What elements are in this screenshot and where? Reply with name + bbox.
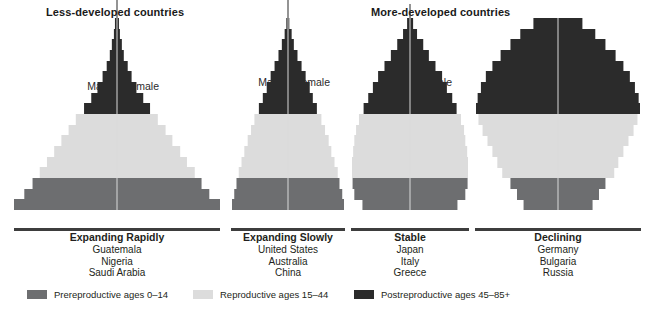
pyramid-caption-expanding-slowly: Expanding Slowly United States Australia…	[229, 232, 347, 279]
legend-item-reproductive: Reproductive ages 15–44	[193, 289, 328, 300]
group-heading-less-developed: Less-developed countries	[46, 6, 184, 18]
caption-country: Australia	[229, 256, 347, 268]
pyramid-panel-expanding-rapidly: Male Female	[6, 18, 228, 228]
pyramid-chart: Male Female	[349, 18, 471, 210]
legend: Prereproductive ages 0–14 Reproductive a…	[0, 286, 648, 308]
pyramid-caption-expanding-rapidly: Expanding Rapidly Guatemala Nigeria Saud…	[6, 232, 228, 279]
pyramid-caption-declining: Declining Germany Bulgaria Russia	[473, 232, 643, 279]
pyramid-chart: Male Female	[6, 18, 228, 210]
pyramid-chart: Male Female	[473, 18, 643, 210]
legend-label: Postreproductive ages 45–85+	[381, 289, 510, 300]
female-label: Female	[295, 76, 330, 88]
legend-swatch-icon	[354, 290, 374, 299]
female-label: Female	[565, 78, 600, 90]
caption-title: Stable	[349, 232, 471, 244]
pyramid-panel-declining: Male Female	[473, 18, 643, 228]
male-label: Male	[380, 76, 403, 88]
male-label: Male	[87, 80, 110, 92]
caption-country: Russia	[473, 267, 643, 279]
legend-item-prereproductive: Prereproductive ages 0–14	[27, 289, 168, 300]
caption-country: Guatemala	[6, 244, 228, 256]
caption-country: Saudi Arabia	[6, 267, 228, 279]
legend-label: Reproductive ages 15–44	[220, 289, 328, 300]
caption-title: Expanding Rapidly	[6, 232, 228, 244]
pyramid-spire	[117, 0, 118, 18]
pyramid-caption-stable: Stable Japan Italy Greece	[349, 232, 471, 279]
caption-country: China	[229, 267, 347, 279]
group-heading-more-developed: More-developed countries	[371, 6, 510, 18]
caption-country: Germany	[473, 244, 643, 256]
pyramid-chart: Male Female	[229, 18, 347, 210]
population-pyramid-figure: Less-developed countries More-developed …	[0, 0, 648, 314]
male-label: Male	[258, 76, 281, 88]
pyramid-panel-stable: Male Female	[349, 18, 471, 228]
legend-swatch-icon	[27, 290, 47, 299]
caption-title: Declining	[473, 232, 643, 244]
caption-country: Greece	[349, 267, 471, 279]
center-axis-line	[117, 18, 118, 210]
caption-title: Expanding Slowly	[229, 232, 347, 244]
caption-country: Bulgaria	[473, 256, 643, 268]
center-axis-line	[288, 18, 289, 210]
legend-label: Prereproductive ages 0–14	[54, 289, 168, 300]
female-label: Female	[417, 76, 452, 88]
pyramid-spire	[288, 0, 289, 18]
caption-country: Nigeria	[6, 256, 228, 268]
center-axis-line	[410, 18, 411, 210]
legend-item-postreproductive: Postreproductive ages 45–85+	[354, 289, 510, 300]
center-axis-line	[558, 18, 559, 210]
pyramid-spire	[410, 4, 411, 18]
legend-swatch-icon	[193, 290, 213, 299]
pyramid-panel-expanding-slowly: Male Female	[229, 18, 347, 228]
caption-country: United States	[229, 244, 347, 256]
female-label: Female	[124, 80, 159, 92]
male-label: Male	[528, 78, 551, 90]
caption-country: Italy	[349, 256, 471, 268]
caption-country: Japan	[349, 244, 471, 256]
